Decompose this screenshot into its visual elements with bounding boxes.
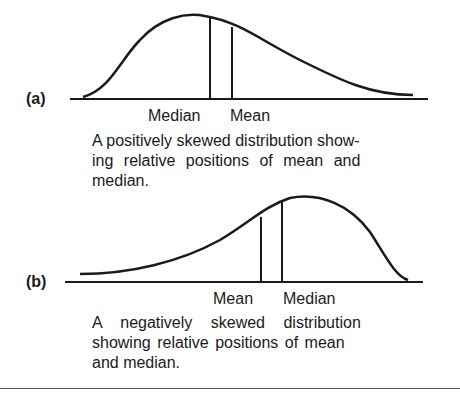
panel-a-graphic (70, 15, 428, 99)
panel-b-caption: A negatively skewed distribution showing… (92, 313, 417, 373)
panel-a-mean-label: Mean (230, 107, 270, 125)
panel-a-median-label: Median (148, 107, 200, 125)
panel-b-median-label: Median (283, 290, 335, 308)
panel-a-caption-line: A positively skewed distribution show- (92, 131, 417, 151)
panel-b-caption-line: and median. (92, 353, 417, 373)
panel-a-curve (83, 15, 413, 97)
panel-b-caption-line: showing relative positions of mean (92, 333, 417, 353)
panel-b-curve (80, 197, 408, 280)
panel-b-graphic (65, 197, 423, 282)
panel-b-label: (b) (26, 273, 46, 291)
panel-a-caption: A positively skewed distribution show- i… (92, 131, 417, 191)
panel-b-mean-label: Mean (213, 290, 253, 308)
panel-a-caption-line: median. (92, 171, 417, 191)
bottom-divider (0, 388, 460, 389)
panel-b-caption-line: A negatively skewed distribution (92, 313, 417, 333)
panel-a-caption-line: ing relative positions of mean and (92, 151, 417, 171)
panel-a-label: (a) (26, 90, 46, 108)
